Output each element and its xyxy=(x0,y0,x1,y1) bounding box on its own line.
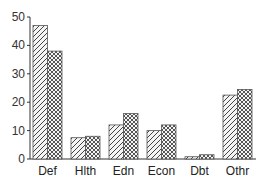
y-tick-label: 10 xyxy=(12,124,26,138)
y-tick-label: 20 xyxy=(12,95,26,109)
y-tick-label: 40 xyxy=(12,38,26,52)
category-label: Othr xyxy=(226,164,249,178)
bars xyxy=(33,26,252,159)
bar-dbt-series-1 xyxy=(185,157,200,159)
bar-def-series-1 xyxy=(33,26,48,159)
bar-othr-series-2 xyxy=(238,89,253,159)
category-label: Dbt xyxy=(190,164,209,178)
bar-def-series-2 xyxy=(48,51,63,159)
bar-edn-series-1 xyxy=(109,125,124,159)
bar-econ-series-2 xyxy=(162,125,177,159)
y-tick-label: 50 xyxy=(12,10,26,24)
bar-chart: 01020304050 DefHlthEdnEconDbtOthr xyxy=(0,0,265,184)
bar-othr-series-1 xyxy=(223,95,238,159)
y-tick-label: 30 xyxy=(12,67,26,81)
bar-hlth-series-2 xyxy=(86,136,101,159)
bar-econ-series-1 xyxy=(147,131,162,159)
bar-hlth-series-1 xyxy=(71,138,86,159)
bar-dbt-series-2 xyxy=(200,155,215,159)
category-label: Def xyxy=(38,164,57,178)
y-tick-label: 0 xyxy=(18,152,25,166)
category-labels: DefHlthEdnEconDbtOthr xyxy=(38,164,249,178)
category-label: Hlth xyxy=(75,164,96,178)
category-label: Edn xyxy=(113,164,134,178)
bar-edn-series-2 xyxy=(124,114,139,159)
y-axis: 01020304050 xyxy=(12,10,30,166)
category-label: Econ xyxy=(148,164,175,178)
